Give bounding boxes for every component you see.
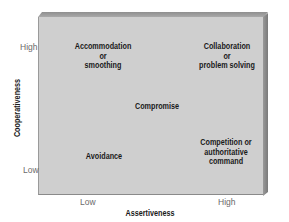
style-label-line: problem solving [190,61,263,71]
style-competition: Competition or authoritative command [192,138,260,167]
x-tick-high: High [218,197,235,207]
style-collaboration: Collaboration or problem solving [190,42,263,71]
style-compromise: Compromise [123,102,191,112]
y-tick-low: Low [23,165,39,175]
style-avoidance: Avoidance [70,152,138,162]
conflict-styles-diagram: Accommodation or smoothing Collaboration… [0,0,289,222]
style-label-line: Compromise [123,102,191,112]
style-label-line: command [192,157,260,167]
style-label-line: Avoidance [70,152,138,162]
x-tick-low: Low [80,197,96,207]
x-axis-title: Assertiveness [125,208,174,218]
y-axis-title: Cooperativeness [12,79,22,137]
y-tick-high: High [20,42,37,52]
style-label-line: smoothing [65,61,142,71]
box-right-bevel [263,13,268,196]
style-accommodation: Accommodation or smoothing [65,42,142,71]
